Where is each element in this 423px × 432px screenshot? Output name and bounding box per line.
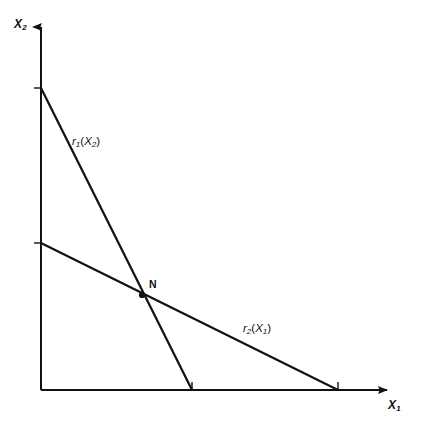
x2-axis-label-sub: 2 — [22, 23, 27, 32]
curve-r2-label-paren-close: ) — [267, 322, 271, 334]
x2-axis-label: X2 — [14, 17, 27, 32]
reaction-functions-diagram — [0, 0, 423, 432]
figure-background — [0, 0, 423, 432]
curve-r1-label: r1(X2) — [72, 135, 100, 149]
point-n-label: N — [149, 278, 157, 290]
curve-r2-label-arg: X — [255, 322, 263, 334]
point-n-marker — [139, 292, 145, 298]
curve-r2-label: r2(X1) — [243, 322, 271, 336]
x1-axis-label-sub: 1 — [396, 404, 401, 413]
x2-axis-label-text: X — [14, 17, 22, 31]
x1-axis-label: X1 — [388, 398, 401, 413]
curve-r1-label-paren-close: ) — [96, 135, 100, 147]
curve-r1-label-arg: X — [84, 135, 92, 147]
x1-axis-label-text: X — [388, 398, 396, 412]
